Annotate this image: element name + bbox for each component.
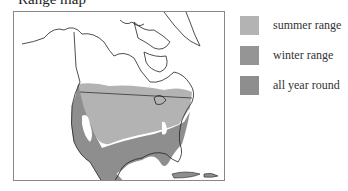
range-map bbox=[13, 11, 225, 181]
legend-label: summer range bbox=[273, 18, 341, 33]
map-title: Range map bbox=[18, 0, 86, 8]
legend-item-winter: winter range bbox=[240, 40, 341, 70]
summer-swatch bbox=[240, 16, 259, 35]
north-america-map bbox=[14, 12, 225, 181]
map-legend: summer range winter range all year round bbox=[240, 10, 341, 100]
year-round-swatch bbox=[240, 76, 259, 95]
legend-item-summer: summer range bbox=[240, 10, 341, 40]
cuba bbox=[172, 172, 200, 178]
legend-label: winter range bbox=[273, 48, 333, 63]
hispaniola bbox=[204, 173, 218, 177]
winter-swatch bbox=[240, 46, 259, 65]
legend-item-year-round: all year round bbox=[240, 70, 341, 100]
legend-label: all year round bbox=[273, 78, 340, 93]
